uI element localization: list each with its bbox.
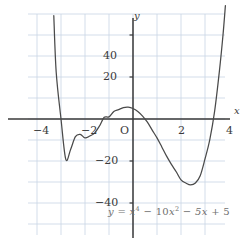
y-tick-label-minus-20: −20: [95, 154, 118, 167]
y-tick-label-20: 20: [103, 70, 117, 83]
x-tick-label-minus-2: −2: [81, 124, 97, 137]
equation-operator-3: +: [211, 206, 220, 217]
origin-label: O: [120, 124, 129, 137]
equation-term3: 5x: [195, 206, 208, 217]
equation-operator-1: −: [143, 206, 152, 217]
equation-term2-exponent: 2: [175, 205, 179, 213]
equation-operator-2: −: [183, 206, 192, 217]
y-axis-label: y: [134, 10, 140, 21]
curve-quartic: [54, 6, 226, 185]
equation-term4: 5: [223, 206, 230, 217]
y-tick-label-40: 40: [103, 49, 117, 62]
equation-lhs: y: [108, 206, 114, 217]
equation-equals: =: [117, 206, 126, 217]
x-tick-label-2: 2: [178, 124, 185, 137]
x-axis-label: x: [234, 105, 240, 116]
equation-annotation: y = x4 − 10x2 − 5x + 5: [108, 205, 230, 217]
x-tick-label-4: 4: [226, 124, 233, 137]
function-graph-figure: 40 20 −20 −40 −4 −2 2 4 O y x y = x4 − 1…: [0, 0, 252, 249]
equation-term1-exponent: 4: [136, 205, 140, 213]
x-tick-label-minus-4: −4: [33, 124, 49, 137]
equation-term2-coefficient: 10: [156, 206, 169, 217]
